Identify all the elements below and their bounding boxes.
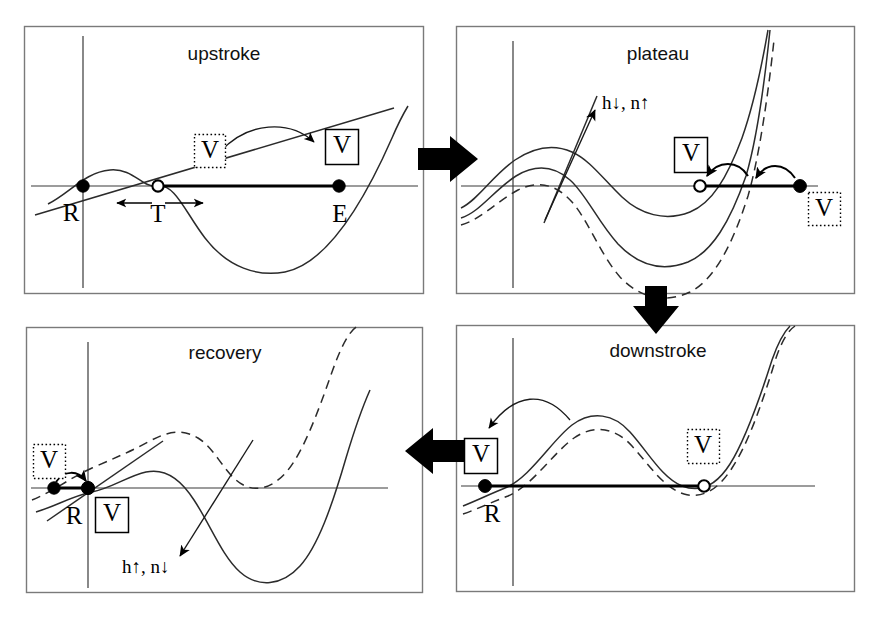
upstroke-v-label-old: V: [201, 136, 219, 163]
downstroke-label-R: R: [484, 500, 501, 527]
phase-cycle-figure: upstroke R T E V V plateau: [0, 0, 877, 621]
figure-root: upstroke R T E V V plateau: [0, 0, 877, 621]
panel-recovery-title: recovery: [189, 342, 262, 363]
recovery-v-label-new: V: [103, 499, 121, 526]
recovery-v-label-old: V: [40, 446, 58, 473]
upstroke-point-T: [152, 180, 163, 191]
panel-downstroke-title: downstroke: [609, 340, 706, 361]
upstroke-label-R: R: [63, 199, 80, 226]
downstroke-point-threshold: [698, 480, 710, 492]
recovery-label-R: R: [66, 502, 83, 529]
downstroke-v-label-old: V: [694, 431, 712, 458]
plateau-param-label: h↓, n↑: [602, 92, 650, 113]
upstroke-label-T: T: [150, 200, 165, 227]
recovery-point-old-rest: [48, 482, 60, 494]
recovery-point-R: [81, 481, 94, 494]
panel-plateau-title: plateau: [627, 43, 689, 64]
panel-upstroke-title: upstroke: [188, 43, 261, 64]
recovery-param-label: h↑, n↓: [122, 556, 170, 577]
downstroke-v-label-new: V: [472, 440, 490, 467]
plateau-v-label-new: V: [682, 139, 700, 166]
upstroke-point-E: [333, 180, 345, 192]
plateau-v-label-old: V: [815, 194, 833, 221]
plateau-point-threshold: [694, 180, 706, 192]
upstroke-label-E: E: [332, 200, 347, 227]
downstroke-point-R: [479, 480, 492, 493]
panel-downstroke-frame: [457, 326, 855, 592]
plateau-point-excited: [794, 180, 807, 193]
upstroke-point-R: [77, 180, 89, 192]
upstroke-v-label-new: V: [333, 131, 351, 158]
panel-recovery[interactable]: recovery R V V h↑, n↓: [27, 326, 423, 593]
panel-upstroke[interactable]: upstroke R T E V V: [25, 27, 424, 294]
panel-downstroke[interactable]: downstroke R V V: [457, 326, 855, 592]
panel-plateau[interactable]: plateau V V h↓, n↑: [457, 27, 855, 299]
